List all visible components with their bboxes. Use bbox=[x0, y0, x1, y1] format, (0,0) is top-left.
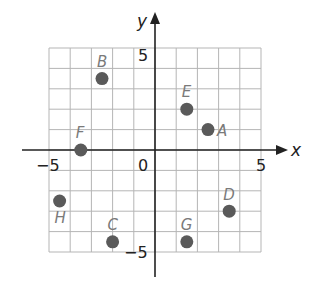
point-marker bbox=[106, 235, 119, 248]
tick-label-x-min: −5 bbox=[36, 156, 60, 175]
point-h: H bbox=[53, 195, 66, 228]
x-axis-label: x bbox=[290, 140, 302, 160]
coordinate-plane: x y 5 −5 0 5 −5 ABCDEFGH bbox=[0, 0, 318, 289]
point-label: G bbox=[181, 216, 193, 234]
point-label: A bbox=[216, 122, 227, 140]
point-marker bbox=[180, 103, 193, 116]
point-g: G bbox=[180, 216, 193, 249]
point-marker bbox=[74, 144, 87, 157]
point-label: B bbox=[97, 53, 107, 71]
tick-label-y-min: −5 bbox=[124, 243, 148, 262]
point-label: H bbox=[55, 209, 66, 227]
point-marker bbox=[202, 123, 215, 136]
point-label: F bbox=[76, 124, 85, 142]
tick-label-y-max: 5 bbox=[138, 46, 148, 65]
y-axis-label: y bbox=[136, 11, 148, 31]
point-d: D bbox=[223, 186, 236, 218]
point-e: E bbox=[180, 83, 193, 116]
point-label: D bbox=[223, 186, 235, 204]
point-marker bbox=[96, 72, 109, 85]
point-c: C bbox=[106, 216, 119, 249]
point-marker bbox=[53, 195, 66, 208]
point-b: B bbox=[96, 53, 109, 86]
point-a: A bbox=[202, 122, 228, 140]
x-axis-arrow-icon bbox=[276, 145, 288, 155]
point-marker bbox=[180, 235, 193, 248]
tick-label-origin: 0 bbox=[138, 156, 148, 175]
y-axis-arrow-icon bbox=[150, 12, 160, 24]
tick-label-x-max: 5 bbox=[256, 156, 266, 175]
point-f: F bbox=[74, 124, 87, 157]
point-label: E bbox=[182, 83, 192, 101]
point-marker bbox=[223, 205, 236, 218]
point-label: C bbox=[108, 216, 119, 234]
